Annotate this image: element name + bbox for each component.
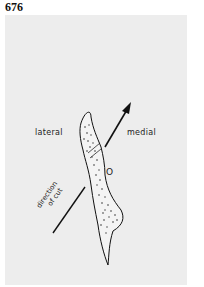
bone-section-diagram: [5, 15, 187, 285]
lateral-label: lateral: [35, 128, 63, 137]
figure-panel: lateral medial O direction of cut: [5, 15, 187, 285]
figure-number: 676: [5, 0, 23, 14]
medial-label: medial: [127, 128, 156, 137]
medial-arrow-icon: [105, 102, 131, 147]
marker-label: O: [106, 167, 113, 177]
